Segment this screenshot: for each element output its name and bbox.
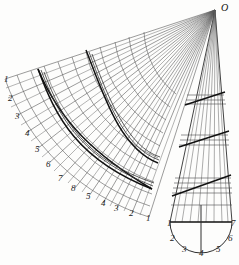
bottom-label-4: 4 <box>101 198 106 208</box>
cone-base-semicircle <box>170 205 232 253</box>
fan-rays <box>5 10 215 217</box>
cone-label-4: 4 <box>199 248 204 258</box>
left-label-1: 1 <box>4 74 9 84</box>
cone-label-7: 7 <box>231 218 236 228</box>
left-label-2: 2 <box>8 93 13 103</box>
geometry-figure: O 1 2 3 4 5 6 7 8 5 4 3 2 1 1 7 2 6 3 4 … <box>0 0 239 265</box>
left-label-3: 3 <box>14 111 20 121</box>
left-label-5: 5 <box>35 144 40 154</box>
cone-label-3: 3 <box>181 244 187 254</box>
fan-intermediate-rays <box>6 10 215 215</box>
cone-label-5: 5 <box>216 244 221 254</box>
cone-edges <box>170 10 232 222</box>
cone-label-1: 1 <box>167 218 172 228</box>
bottom-label-3: 3 <box>113 203 119 213</box>
bottom-label-5: 5 <box>86 191 91 201</box>
left-label-8: 8 <box>71 183 76 193</box>
figure-canvas: O 1 2 3 4 5 6 7 8 5 4 3 2 1 1 7 2 6 3 4 … <box>0 0 239 265</box>
bottom-label-1: 1 <box>146 213 151 223</box>
apex-label: O <box>221 2 228 13</box>
left-label-6: 6 <box>46 159 51 169</box>
left-label-7: 7 <box>58 173 63 183</box>
cone-label-2: 2 <box>170 233 175 243</box>
bottom-label-2: 2 <box>129 208 134 218</box>
cone-label-6: 6 <box>228 233 233 243</box>
left-label-4: 4 <box>25 128 30 138</box>
